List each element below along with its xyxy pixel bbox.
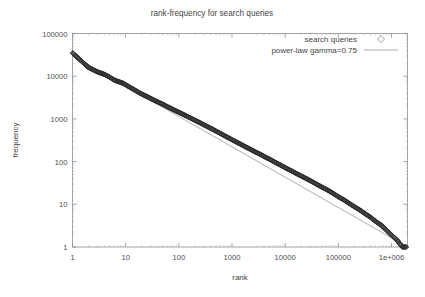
x-tick-label: 1e+006 [379, 253, 405, 262]
x-tick-label: 1000 [224, 253, 241, 262]
x-tick-label: 10 [121, 253, 129, 262]
search-queries-data-points [70, 50, 409, 249]
y-axis-title: frequency [11, 122, 20, 157]
legend-label-power-law: power-law gamma=0.75 [271, 46, 357, 55]
x-tick-label: 100 [172, 253, 185, 262]
legend-label-search-queries: search queries [305, 35, 357, 44]
legend-diamond-icon [378, 36, 385, 43]
axis-ticks [73, 34, 408, 248]
chart-figure: rank-frequency for search queries 110100… [0, 0, 425, 297]
y-tick-label: 1000 [51, 115, 68, 124]
y-axis-tick-labels: 110100100010000100000 [42, 30, 67, 253]
x-axis-tick-labels: 1101001000100001000001e+006 [70, 253, 404, 262]
x-tick-label: 10000 [275, 253, 296, 262]
y-tick-label: 100 [55, 158, 68, 167]
rank-frequency-chart: rank-frequency for search queries 110100… [0, 0, 425, 297]
x-tick-label: 100000 [326, 253, 351, 262]
x-axis-title: rank [232, 273, 249, 282]
chart-title: rank-frequency for search queries [151, 9, 273, 18]
y-tick-label: 10 [59, 200, 67, 209]
y-tick-label: 100000 [42, 30, 67, 39]
chart-legend: search queries power-law gamma=0.75 [271, 35, 398, 55]
y-tick-label: 1 [63, 243, 67, 252]
plot-frame [73, 34, 408, 248]
y-tick-label: 10000 [46, 72, 67, 81]
x-tick-label: 1 [70, 253, 74, 262]
